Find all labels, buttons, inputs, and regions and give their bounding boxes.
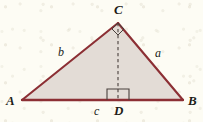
side-label-c: c bbox=[94, 105, 99, 117]
side-label-b: b bbox=[58, 46, 64, 58]
vertex-label-c: C bbox=[114, 3, 123, 16]
vertex-label-b: B bbox=[188, 94, 197, 107]
vertex-label-a: A bbox=[6, 94, 15, 107]
triangle-diagram-svg bbox=[0, 0, 203, 122]
side-label-a: a bbox=[155, 47, 161, 59]
vertex-label-d: D bbox=[114, 104, 123, 117]
geometry-figure: A B C D a b c bbox=[0, 0, 203, 122]
